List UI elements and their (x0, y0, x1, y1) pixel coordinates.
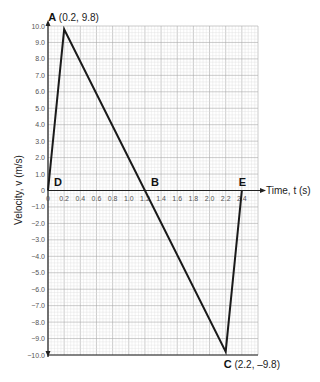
x-tick-label: 1.8 (189, 195, 199, 202)
x-tick-label: 1.0 (124, 195, 134, 202)
point-label-c: C (2.2, –9.8) (224, 358, 280, 370)
y-tick-label: −9.0 (31, 335, 45, 342)
point-label-b: B (151, 176, 159, 188)
y-tick-label: 0 (41, 187, 45, 194)
velocity-time-chart: 00.20.40.60.81.01.21.41.61.82.02.22.410.… (0, 0, 320, 382)
y-tick-label: −7.0 (31, 302, 45, 309)
y-tick-label: 8.0 (35, 55, 45, 62)
x-axis-label: Time, t (s) (266, 185, 311, 196)
x-tick-label: 0 (46, 195, 50, 202)
x-tick-label: 2.2 (221, 195, 231, 202)
y-tick-label: 7.0 (35, 72, 45, 79)
y-tick-label: −3.0 (31, 236, 45, 243)
y-tick-label: −1.0 (31, 203, 45, 210)
x-tick-label: 0.2 (59, 195, 69, 202)
y-tick-label: −5.0 (31, 269, 45, 276)
point-label-d: D (54, 176, 62, 188)
y-tick-label: 3.0 (35, 138, 45, 145)
x-tick-label: 2.0 (205, 195, 215, 202)
x-tick-label: 0.8 (108, 195, 118, 202)
x-tick-label: 1.6 (172, 195, 182, 202)
y-tick-label: 9.0 (35, 39, 45, 46)
y-tick-label: 2.0 (35, 154, 45, 161)
x-tick-label: 0.6 (92, 195, 102, 202)
point-label-a: A (0.2, 9.8) (48, 11, 99, 23)
y-tick-label: 6.0 (35, 88, 45, 95)
x-tick-label: 1.4 (156, 195, 166, 202)
y-tick-label: −8.0 (31, 319, 45, 326)
y-tick-label: 4.0 (35, 121, 45, 128)
y-axis-label: Velocity, v (m/s) (13, 155, 24, 225)
y-tick-label: −4.0 (31, 253, 45, 260)
y-tick-label: −6.0 (31, 286, 45, 293)
y-tick-label: −10.0 (27, 352, 45, 359)
axes (46, 20, 267, 357)
y-tick-label: 10.0 (31, 23, 45, 30)
y-tick-label: 5.0 (35, 105, 45, 112)
point-label-e: E (239, 176, 246, 188)
x-tick-label: 0.4 (75, 195, 85, 202)
y-tick-label: −2.0 (31, 220, 45, 227)
y-tick-label: 1.0 (35, 171, 45, 178)
